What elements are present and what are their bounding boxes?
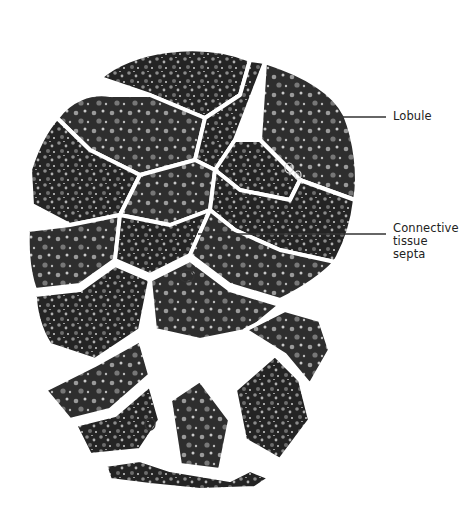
label-lobule: Lobule xyxy=(393,110,432,123)
label-line: septa xyxy=(393,248,473,261)
label-connective-tissue-septa: Connective tissue septa xyxy=(393,222,473,261)
lobule xyxy=(170,380,230,470)
lobules xyxy=(28,50,357,490)
